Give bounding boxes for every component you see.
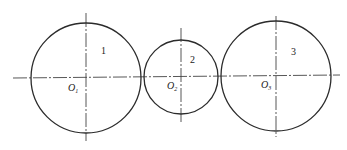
circle-2-center-label: O2 xyxy=(167,80,177,92)
circle-1-number: 1 xyxy=(101,45,106,56)
horizontal-center-line xyxy=(13,75,340,78)
circle-3-center-label: O3 xyxy=(261,79,271,91)
circle-2-number: 2 xyxy=(190,54,195,65)
circle-2-group: 2 O2 xyxy=(144,28,218,122)
tangent-circles-diagram: 1 O1 2 O2 3 O3 xyxy=(0,0,347,150)
circle-1-center-label: O1 xyxy=(68,82,78,94)
circle-3-number: 3 xyxy=(291,46,296,57)
circle-3-group: 3 O3 xyxy=(221,16,331,137)
